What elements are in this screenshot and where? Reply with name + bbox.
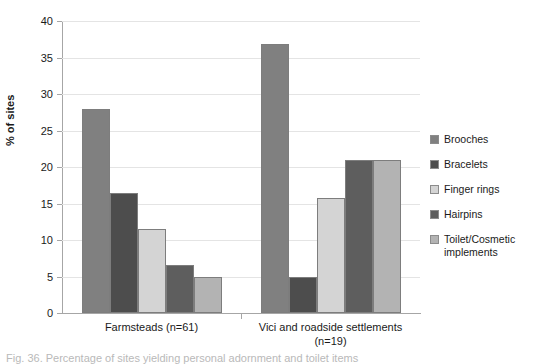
category-label-line: Vici and roadside settlements bbox=[241, 320, 420, 334]
y-tick-mark bbox=[57, 131, 62, 132]
legend-item[interactable]: Brooches bbox=[430, 133, 538, 146]
bar bbox=[194, 277, 222, 313]
bar bbox=[261, 44, 289, 313]
bar bbox=[345, 160, 373, 313]
gridline bbox=[62, 21, 420, 22]
category-separator bbox=[241, 313, 242, 319]
y-tick-label: 30 bbox=[41, 88, 53, 100]
y-tick-label: 5 bbox=[47, 271, 53, 283]
y-axis-label: % of sites bbox=[4, 95, 16, 146]
y-tick-mark bbox=[57, 94, 62, 95]
legend-swatch-icon bbox=[430, 235, 439, 244]
y-tick-label: 10 bbox=[41, 234, 53, 246]
y-tick-label: 15 bbox=[41, 198, 53, 210]
bar bbox=[138, 229, 166, 313]
category-label-line: (n=19) bbox=[241, 334, 420, 348]
legend-swatch-icon bbox=[430, 135, 439, 144]
y-tick-mark bbox=[57, 21, 62, 22]
y-tick-mark bbox=[57, 58, 62, 59]
y-tick-label: 20 bbox=[41, 161, 53, 173]
bar-chart-figure: % of sites 0510152025303540 Farmsteads (… bbox=[0, 0, 540, 364]
legend-item[interactable]: Bracelets bbox=[430, 158, 538, 171]
chart-legend: BroochesBraceletsFinger ringsHairpinsToi… bbox=[430, 133, 538, 271]
y-tick-mark bbox=[57, 240, 62, 241]
legend-swatch-icon bbox=[430, 210, 439, 219]
bar bbox=[289, 277, 317, 314]
y-tick-mark bbox=[57, 204, 62, 205]
legend-label: Finger rings bbox=[444, 183, 499, 196]
legend-label: Brooches bbox=[444, 133, 488, 146]
x-axis-category-label: Vici and roadside settlements(n=19) bbox=[241, 320, 420, 348]
legend-swatch-icon bbox=[430, 160, 439, 169]
y-tick-label: 25 bbox=[41, 125, 53, 137]
gridline bbox=[62, 94, 420, 95]
legend-item[interactable]: Toilet/Cosmetic implements bbox=[430, 233, 538, 259]
category-label-line: Farmsteads (n=61) bbox=[62, 320, 241, 334]
figure-caption: Fig. 36. Percentage of sites yielding pe… bbox=[6, 352, 540, 364]
y-tick-mark bbox=[57, 167, 62, 168]
gridline bbox=[62, 58, 420, 59]
y-tick-label: 0 bbox=[47, 307, 53, 319]
legend-swatch-icon bbox=[430, 185, 439, 194]
bar bbox=[166, 265, 194, 313]
legend-label: Hairpins bbox=[444, 208, 483, 221]
legend-item[interactable]: Hairpins bbox=[430, 208, 538, 221]
legend-item[interactable]: Finger rings bbox=[430, 183, 538, 196]
x-axis-category-label: Farmsteads (n=61) bbox=[62, 320, 241, 334]
bar bbox=[110, 193, 138, 313]
bar bbox=[317, 198, 345, 313]
gridline bbox=[62, 131, 420, 132]
y-tick-label: 40 bbox=[41, 15, 53, 27]
legend-label: Toilet/Cosmetic implements bbox=[444, 233, 538, 259]
bar bbox=[373, 160, 401, 313]
bar bbox=[82, 109, 110, 313]
legend-label: Bracelets bbox=[444, 158, 488, 171]
plot-area: 0510152025303540 bbox=[62, 21, 420, 313]
y-tick-mark bbox=[57, 313, 62, 314]
y-tick-mark bbox=[57, 277, 62, 278]
y-tick-label: 35 bbox=[41, 52, 53, 64]
